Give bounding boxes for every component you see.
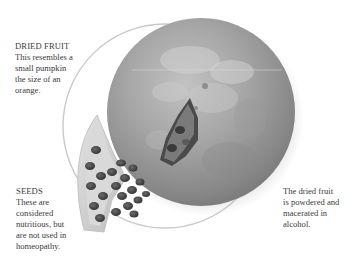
dried-fruit [107,18,295,206]
seeds-caption: SEEDS These are considered nutritious, b… [16,186,66,252]
caption-line: macerated in [283,208,339,219]
caption-line: are not used in [16,230,66,241]
caption-line: is powdered and [283,197,339,208]
caption-line: considered [16,208,66,219]
caption-line: The dried fruit [283,186,339,197]
caption-line: These are [16,197,66,208]
preparation-caption: The dried fruit is powdered and macerate… [283,186,339,230]
caption-line: alcohol. [283,219,339,230]
caption-line: small pumpkin [15,63,73,74]
dried-fruit-caption: DRIED FRUIT This resembles a small pumpk… [15,41,73,96]
caption-line: nutritious, but [16,219,66,230]
caption-line: orange. [15,85,73,96]
caption-heading: DRIED FRUIT [15,41,73,52]
caption-line: the size of an [15,74,73,85]
caption-heading: SEEDS [16,186,66,197]
caption-line: homeopathy. [16,241,66,252]
caption-line: This resembles a [15,52,73,63]
